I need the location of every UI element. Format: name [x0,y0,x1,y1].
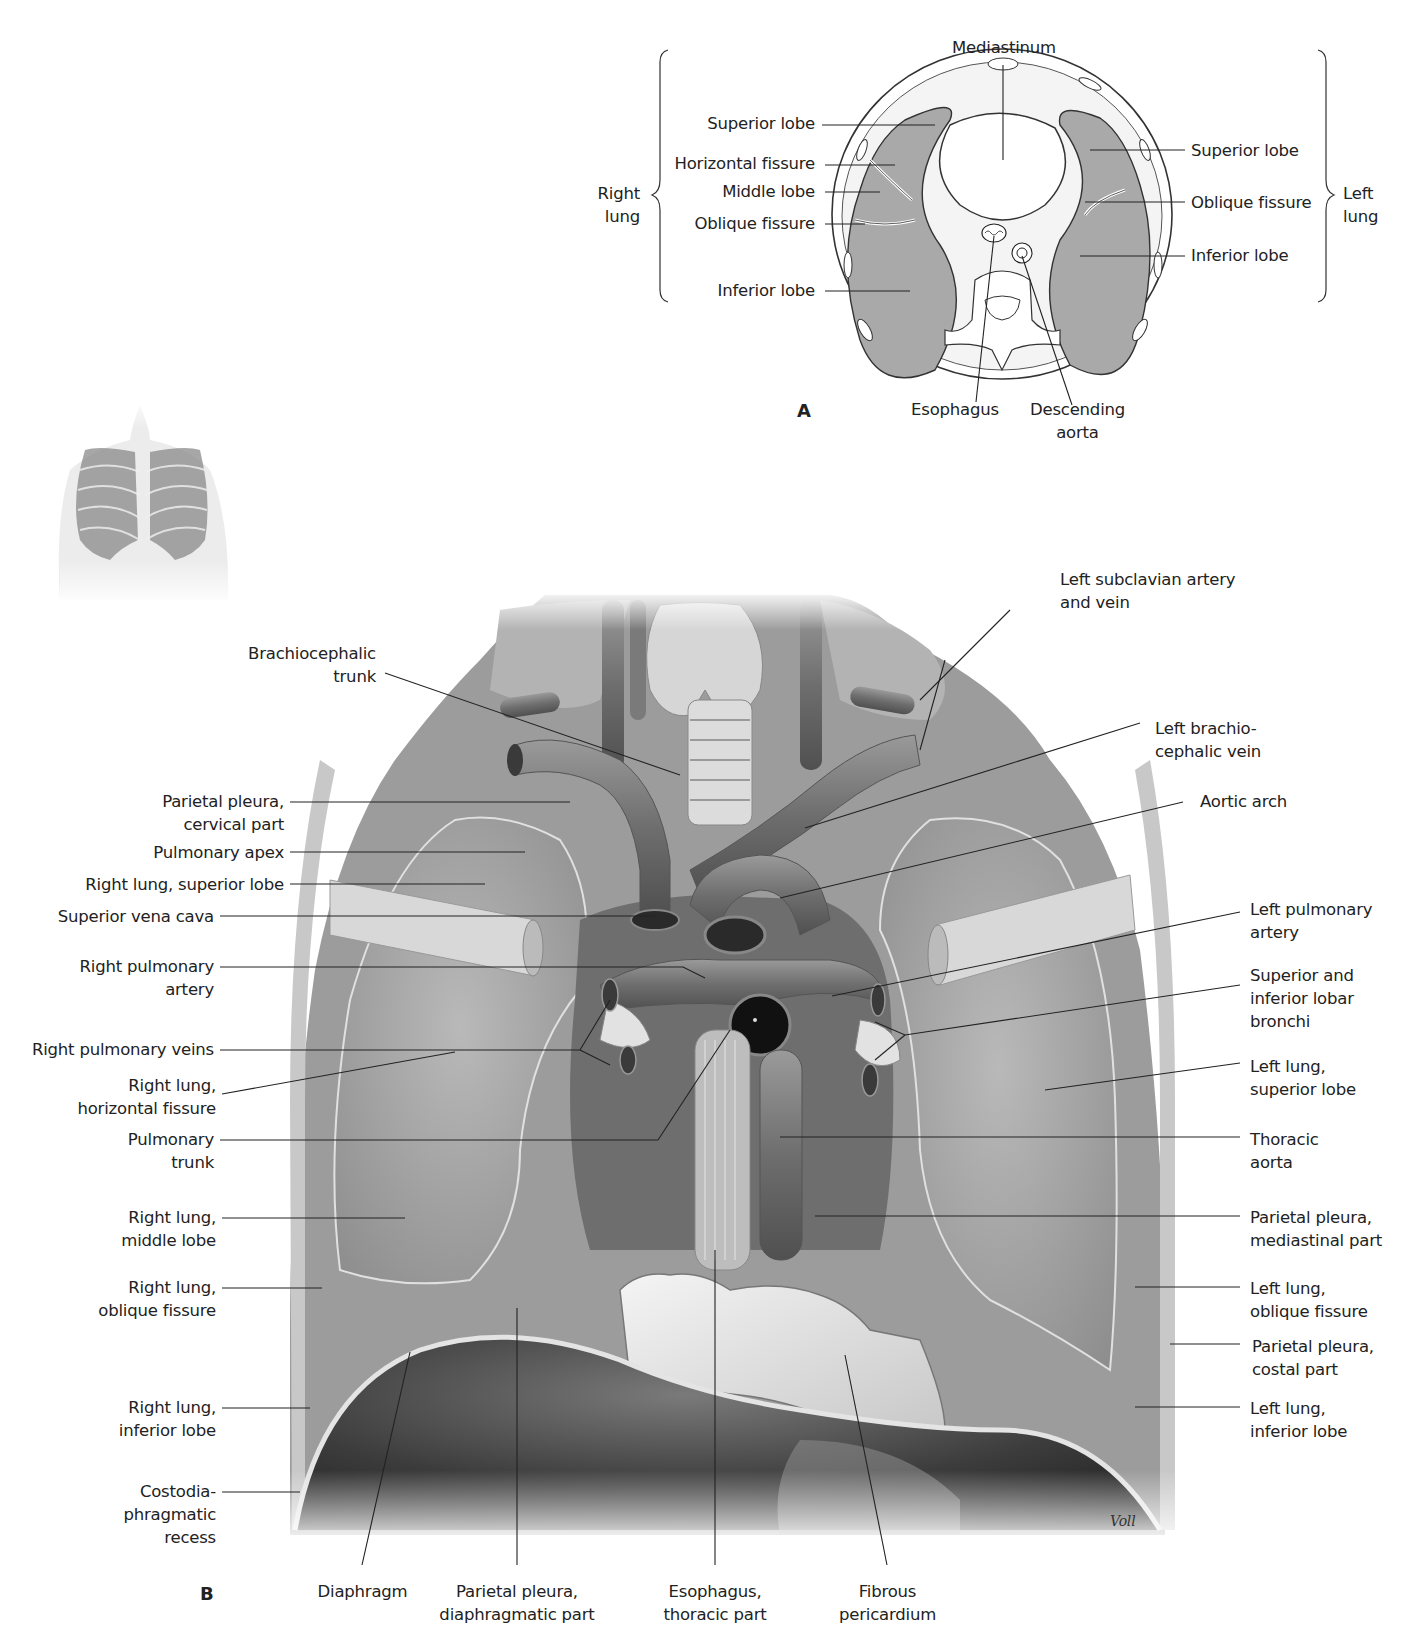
label-a-middle-lobe: Middle lobe [640,180,815,203]
label-left-brachiocephalic-vein: Left brachio- cephalic vein [1155,717,1261,763]
panel-b-letter: B [200,1583,214,1604]
label-right-lung-group: Right lung [570,182,640,228]
label-esophagus-thoracic: Esophagus, thoracic part [645,1580,785,1626]
label-a-left-oblique-fissure: Oblique fissure [1191,191,1312,214]
label-a-right-superior-lobe: Superior lobe [640,112,815,135]
label-superior-vena-cava: Superior vena cava [20,905,214,928]
label-right-lung-inferior-lobe: Right lung, inferior lobe [20,1396,216,1442]
left-lung-bracket [1318,50,1334,302]
label-a-right-oblique-fissure: Oblique fissure [640,212,815,235]
label-right-lung-superior-lobe: Right lung, superior lobe [20,873,284,896]
label-fibrous-pericardium: Fibrous pericardium [825,1580,950,1626]
label-diaphragm: Diaphragm [305,1580,420,1603]
label-left-subclavian-artery-vein: Left subclavian artery and vein [1060,568,1235,614]
panel-a-letter: A [797,400,811,421]
label-right-pulmonary-veins: Right pulmonary veins [10,1038,214,1061]
label-thoracic-aorta: Thoracic aorta [1250,1128,1319,1174]
label-aortic-arch: Aortic arch [1200,790,1287,813]
label-a-left-superior-lobe: Superior lobe [1191,139,1299,162]
label-pulmonary-apex: Pulmonary apex [80,841,284,864]
orientation-thumbnail [59,398,230,605]
label-superior-inferior-lobar-bronchi: Superior and inferior lobar bronchi [1250,964,1354,1033]
label-parietal-pleura-costal: Parietal pleura, costal part [1252,1335,1374,1381]
label-left-lung-superior-lobe: Left lung, superior lobe [1250,1055,1356,1101]
label-left-lung-group: Left lung [1343,182,1403,228]
label-parietal-pleura-cervical: Parietal pleura, cervical part [80,790,284,836]
label-left-pulmonary-artery: Left pulmonary artery [1250,898,1372,944]
label-mediastinum: Mediastinum [944,36,1064,59]
label-a-left-inferior-lobe: Inferior lobe [1191,244,1288,267]
artist-signature: Voll [1110,1510,1135,1533]
label-parietal-pleura-diaphragmatic: Parietal pleura, diaphragmatic part [432,1580,602,1626]
label-brachiocephalic-trunk: Brachiocephalic trunk [180,642,376,688]
label-right-lung-middle-lobe: Right lung, middle lobe [20,1206,216,1252]
label-a-esophagus: Esophagus [905,398,1005,421]
label-right-lung-horizontal-fissure: Right lung, horizontal fissure [10,1074,216,1120]
label-costodiaphragmatic-recess: Costodia- phragmatic recess [20,1480,216,1549]
panel-b-dissection [270,590,1190,1550]
anatomy-figure: Mediastinum Right lung Left lung Superio… [0,0,1404,1645]
label-left-lung-oblique-fissure: Left lung, oblique fissure [1250,1277,1368,1323]
right-lung-bracket [652,50,668,302]
label-a-right-inferior-lobe: Inferior lobe [640,279,815,302]
label-a-descending-aorta: Descending aorta [1020,398,1135,444]
label-a-horizontal-fissure: Horizontal fissure [640,152,815,175]
label-pulmonary-trunk: Pulmonary trunk [20,1128,214,1174]
label-parietal-pleura-mediastinal: Parietal pleura, mediastinal part [1250,1206,1382,1252]
label-left-lung-inferior-lobe: Left lung, inferior lobe [1250,1397,1347,1443]
label-right-lung-oblique-fissure: Right lung, oblique fissure [20,1276,216,1322]
label-right-pulmonary-artery: Right pulmonary artery [20,955,214,1001]
